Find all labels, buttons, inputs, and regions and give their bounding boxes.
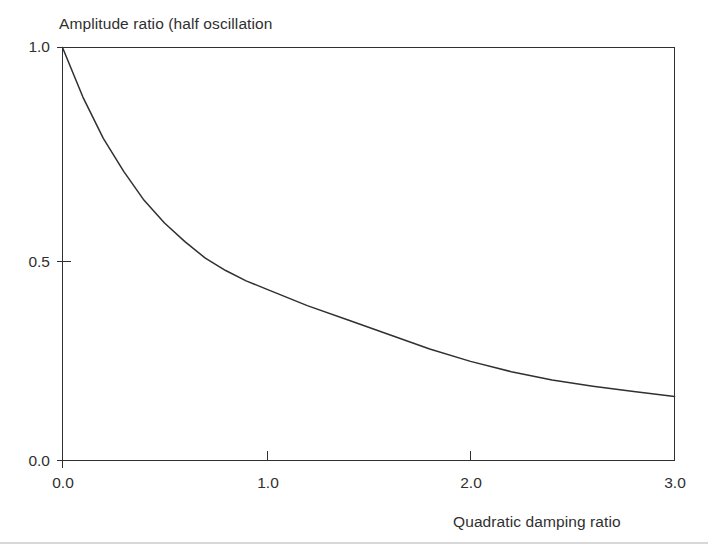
y-tick-label-0: 0.0 <box>8 452 50 470</box>
x-tick-label-0: 0.0 <box>52 474 74 492</box>
data-curve-amplitude-ratio <box>63 48 675 397</box>
x-tick-label-1: 1.0 <box>257 474 279 492</box>
x-axis-label: Quadratic damping ratio <box>453 513 621 531</box>
y-axis-ticks <box>57 48 71 461</box>
x-tick-label-2: 2.0 <box>460 474 482 492</box>
y-tick-label-1: 1.0 <box>8 38 50 56</box>
chart-figure: Amplitude ratio (half oscillation 1.0 0.… <box>0 0 708 544</box>
axis-frame <box>62 47 675 461</box>
x-axis-ticks <box>63 451 675 468</box>
plot-canvas <box>0 0 708 544</box>
x-tick-label-3: 3.0 <box>664 474 686 492</box>
y-tick-label-0_5: 0.5 <box>8 253 50 271</box>
